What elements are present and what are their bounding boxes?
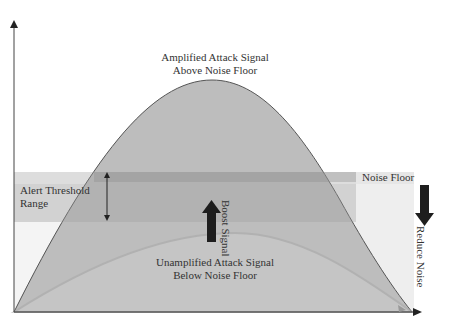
amplified-signal-label-line1: Amplified Attack Signal — [150, 51, 280, 64]
unamplified-signal-label-line1: Unamplified Attack Signal — [145, 256, 285, 269]
reduce-noise-label-line2: Noise — [415, 262, 427, 288]
y-axis-arrowhead — [10, 20, 18, 28]
alert-threshold-label: Alert Threshold Range — [20, 184, 90, 210]
unamplified-signal-label-line2: Below Noise Floor — [145, 269, 285, 282]
amplified-signal-label: Amplified Attack Signal Above Noise Floo… — [150, 51, 280, 77]
reduce-noise-label: Reduce Noise — [415, 226, 427, 270]
noise-floor-label-text: Noise Floor — [362, 171, 414, 183]
boost-signal-label-line1: Boost — [220, 200, 232, 226]
noise-floor-label: Noise Floor — [362, 171, 414, 184]
reduce-arrow-down-icon — [415, 185, 434, 226]
unamplified-signal-label: Unamplified Attack Signal Below Noise Fl… — [145, 256, 285, 282]
reduce-noise-label-line1: Reduce — [415, 226, 427, 259]
amplified-signal-label-line2: Above Noise Floor — [150, 64, 280, 77]
alert-threshold-top-band — [94, 172, 356, 182]
diagram-canvas: Amplified Attack Signal Above Noise Floo… — [0, 0, 457, 331]
boost-signal-label-line2: Signal — [220, 228, 232, 256]
boost-signal-label: Boost Signal — [220, 200, 232, 240]
x-axis-arrowhead — [413, 308, 422, 316]
alert-threshold-label-line1: Alert Threshold — [20, 184, 90, 197]
alert-threshold-label-line2: Range — [20, 197, 90, 210]
